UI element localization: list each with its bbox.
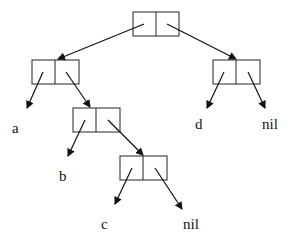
cons-cell-diagram: a b c nil d nil (0, 0, 294, 236)
leaf-b: b (59, 168, 67, 184)
edge-root-left (58, 24, 144, 59)
leaf-nil-right: nil (262, 116, 278, 132)
edge-mid-bottom (108, 120, 143, 155)
node-root (133, 12, 179, 36)
leaf-c: c (101, 216, 108, 232)
leaf-nil-bottom: nil (183, 216, 199, 232)
edge-bottom-nil (155, 168, 182, 209)
leaf-d: d (195, 116, 203, 132)
leaf-a: a (12, 120, 19, 136)
edge-root-right (167, 24, 236, 59)
node-mid (73, 108, 120, 132)
